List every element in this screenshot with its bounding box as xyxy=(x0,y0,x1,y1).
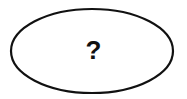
diagram: ? xyxy=(0,0,187,99)
node-label: ? xyxy=(0,0,187,99)
